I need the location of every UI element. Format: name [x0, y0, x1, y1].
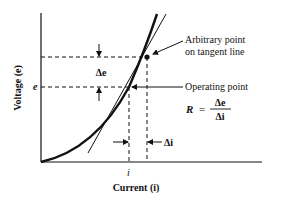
- x-tick-i: i: [127, 167, 130, 178]
- formula-numerator: Δe: [215, 97, 226, 108]
- diagram-canvas: Voltage (e) e i Current (i) Δe Δi Arbitr…: [0, 0, 283, 203]
- arbitrary-point-pointer: [153, 41, 183, 54]
- delta-i-label: Δi: [164, 137, 173, 148]
- delta-e-label: Δe: [96, 67, 107, 78]
- y-axis-label: Voltage (e): [12, 65, 24, 110]
- formula-r: R: [185, 103, 193, 115]
- operating-point-label: Operating point: [185, 81, 248, 92]
- arbitrary-point-label-line1: Arbitrary point: [185, 34, 245, 45]
- arbitrary-point-label-line2: on tangent line: [185, 46, 245, 57]
- x-axis-label: Current (i): [113, 182, 160, 194]
- formula-denominator: Δi: [215, 111, 224, 122]
- arbitrary-point-marker: [144, 54, 149, 59]
- tangent-line: [88, 14, 166, 153]
- formula-equals: =: [199, 103, 205, 115]
- y-tick-e: e: [33, 81, 38, 92]
